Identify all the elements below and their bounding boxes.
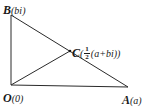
label-A: A(a) <box>122 91 142 107</box>
segment-OC <box>11 51 70 85</box>
point-C-name: C <box>72 46 80 60</box>
segment-OA <box>11 85 128 87</box>
fraction-denominator: 2 <box>84 54 90 61</box>
point-B-coord: bi <box>14 5 22 16</box>
point-A-close: ) <box>138 95 141 106</box>
point-O-close: ) <box>20 93 23 104</box>
label-B: B(bi) <box>3 1 25 17</box>
point-O-name: O <box>3 91 12 105</box>
point-C-dot <box>69 50 72 53</box>
point-C-close: ) <box>117 48 120 59</box>
fraction-one-half: 12 <box>84 46 90 61</box>
label-O: O(0) <box>3 89 23 105</box>
point-C-open: ( <box>80 48 83 59</box>
label-C: C(12(a+bi)) <box>72 44 120 61</box>
point-B-name: B <box>3 3 11 17</box>
point-C-coord: (a+bi) <box>91 48 117 59</box>
point-B-close: ) <box>22 5 25 16</box>
point-A-name: A <box>122 93 130 107</box>
